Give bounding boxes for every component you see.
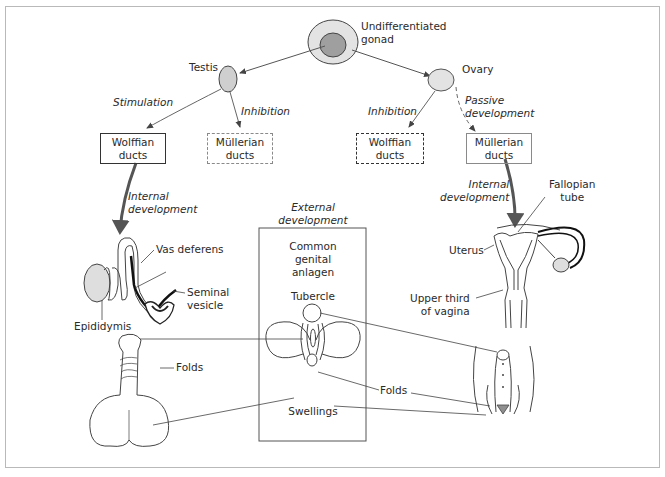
ovary-icon <box>428 69 454 91</box>
folds-label: Folds <box>380 384 407 397</box>
seminal-vesicle-label: Seminal vesicle <box>187 286 229 312</box>
male-inhibition-label: Inhibition <box>241 105 290 118</box>
stimulation-label: Stimulation <box>113 96 173 109</box>
female-mullerian-ducts-box: Müllerian ducts <box>466 133 532 164</box>
swellings-label: Swellings <box>282 405 344 418</box>
tubercle-female-line <box>320 313 497 352</box>
undifferentiated-gonad-label: Undifferentiated gonad <box>361 20 447 46</box>
common-anlagen-illustration <box>266 304 360 366</box>
female-internal-organs-illustration <box>494 224 584 328</box>
passive-development-label: Passive development <box>465 94 534 120</box>
male-mullerian-ducts-box: Müllerian ducts <box>207 133 273 164</box>
swellings-female-line <box>334 406 486 415</box>
testis-label: Testis <box>189 61 218 74</box>
uterus-label: Uterus <box>449 244 484 257</box>
female-internal-development-label: Internal development <box>440 178 509 204</box>
male-internal-development-label: Internal development <box>128 190 197 216</box>
upper-third-vagina-label: Upper third of vagina <box>410 292 470 318</box>
external-development-heading: External development <box>276 201 350 227</box>
fallopian-tube-label: Fallopian tube <box>549 178 595 204</box>
vas-deferens-label: Vas deferens <box>156 243 224 256</box>
female-inhibition-label: Inhibition <box>368 105 417 118</box>
undifferentiated-gonad-icon <box>308 20 358 64</box>
epididymis-label: Epididymis <box>74 320 131 333</box>
female-wolffian-ducts-box: Wolffian ducts <box>356 133 424 164</box>
male-external-illustration <box>90 334 169 446</box>
female-external-illustration <box>473 346 534 414</box>
common-genital-anlagen-title: Common genital anlagen <box>276 240 350 279</box>
swellings-male-line <box>153 398 294 425</box>
male-wolffian-ducts-box: Wolffian ducts <box>100 133 166 164</box>
testis-icon <box>219 66 237 92</box>
male-folds-label: Folds <box>176 361 203 374</box>
tubercle-label: Tubercle <box>286 290 340 303</box>
ovary-label: Ovary <box>462 63 493 76</box>
